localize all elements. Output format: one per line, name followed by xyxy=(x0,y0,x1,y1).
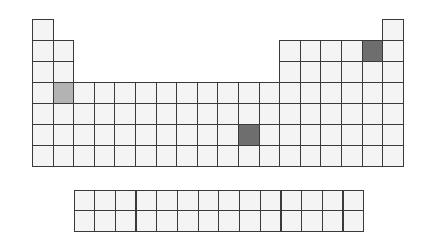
element-cell-p6-g10 xyxy=(217,124,239,146)
element-cell-p7-g12 xyxy=(259,145,281,167)
element-cell-p4-g18 xyxy=(382,82,404,104)
element-cell-p5-g4 xyxy=(94,103,116,125)
actinide-cell-3 xyxy=(115,210,137,232)
element-cell-p5-g3 xyxy=(73,103,95,125)
element-cell-p5-g15 xyxy=(320,103,342,125)
element-cell-p4-g9 xyxy=(197,82,219,104)
element-cell-p1-g18 xyxy=(382,19,404,41)
element-cell-p6-g16 xyxy=(341,124,363,146)
element-cell-p6-g2 xyxy=(53,124,75,146)
element-cell-p3-g18 xyxy=(382,61,404,83)
element-cell-p2-g13 xyxy=(279,40,301,62)
element-cell-p5-g17 xyxy=(362,103,384,125)
lanthanide-cell-5 xyxy=(156,190,178,212)
lanthanide-cell-12 xyxy=(301,190,323,212)
element-cell-p7-g5 xyxy=(114,145,136,167)
element-cell-p7-g17 xyxy=(362,145,384,167)
periodic-table-diagram xyxy=(0,0,427,239)
element-cell-p7-g16 xyxy=(341,145,363,167)
element-cell-p2-g1 xyxy=(32,40,54,62)
element-cell-p4-g14 xyxy=(300,82,322,104)
element-cell-p7-g18 xyxy=(382,145,404,167)
element-cell-p3-g16 xyxy=(341,61,363,83)
element-cell-p2-g17-highlighted xyxy=(362,40,384,62)
element-cell-p6-g6 xyxy=(135,124,157,146)
element-cell-p4-g5 xyxy=(114,82,136,104)
actinide-cell-13 xyxy=(322,210,344,232)
element-cell-p4-g8 xyxy=(176,82,198,104)
element-cell-p6-g7 xyxy=(156,124,178,146)
element-cell-p6-g12 xyxy=(259,124,281,146)
element-cell-p4-g1 xyxy=(32,82,54,104)
element-cell-p6-g15 xyxy=(320,124,342,146)
element-cell-p4-g11 xyxy=(238,82,260,104)
lanthanide-cell-2 xyxy=(94,190,116,212)
element-cell-p6-g17 xyxy=(362,124,384,146)
actinide-cell-5 xyxy=(156,210,178,232)
lanthanide-cell-9 xyxy=(239,190,261,212)
element-cell-p6-g3 xyxy=(73,124,95,146)
element-cell-p6-g4 xyxy=(94,124,116,146)
element-cell-p6-g5 xyxy=(114,124,136,146)
element-cell-p2-g16 xyxy=(341,40,363,62)
element-cell-p6-g18 xyxy=(382,124,404,146)
lanthanide-cell-11 xyxy=(281,190,303,212)
element-cell-p7-g11 xyxy=(238,145,260,167)
lanthanide-cell-3 xyxy=(115,190,137,212)
element-cell-p4-g13 xyxy=(279,82,301,104)
actinide-cell-7 xyxy=(198,210,220,232)
element-cell-p5-g12 xyxy=(259,103,281,125)
element-cell-p1-g1 xyxy=(32,19,54,41)
element-cell-p3-g17 xyxy=(362,61,384,83)
actinide-cell-8 xyxy=(218,210,240,232)
element-cell-p4-g17 xyxy=(362,82,384,104)
element-cell-p3-g14 xyxy=(300,61,322,83)
actinide-cell-1 xyxy=(74,210,96,232)
lanthanide-cell-8 xyxy=(218,190,240,212)
element-cell-p5-g2 xyxy=(53,103,75,125)
element-cell-p5-g13 xyxy=(279,103,301,125)
actinide-cell-6 xyxy=(177,210,199,232)
lanthanide-cell-6 xyxy=(177,190,199,212)
element-cell-p7-g7 xyxy=(156,145,178,167)
element-cell-p5-g14 xyxy=(300,103,322,125)
actinide-cell-12 xyxy=(301,210,323,232)
element-cell-p7-g15 xyxy=(320,145,342,167)
element-cell-p3-g15 xyxy=(320,61,342,83)
actinide-cell-2 xyxy=(94,210,116,232)
element-cell-p7-g3 xyxy=(73,145,95,167)
lanthanide-cell-1 xyxy=(74,190,96,212)
actinide-cell-10 xyxy=(260,210,282,232)
element-cell-p5-g8 xyxy=(176,103,198,125)
lanthanide-cell-10 xyxy=(260,190,282,212)
element-cell-p4-g7 xyxy=(156,82,178,104)
element-cell-p6-g9 xyxy=(197,124,219,146)
lanthanide-cell-14 xyxy=(343,190,365,212)
element-cell-p3-g1 xyxy=(32,61,54,83)
element-cell-p5-g9 xyxy=(197,103,219,125)
element-cell-p7-g10 xyxy=(217,145,239,167)
element-cell-p4-g15 xyxy=(320,82,342,104)
element-cell-p2-g15 xyxy=(320,40,342,62)
element-cell-p5-g1 xyxy=(32,103,54,125)
element-cell-p4-g10 xyxy=(217,82,239,104)
element-cell-p7-g13 xyxy=(279,145,301,167)
element-cell-p7-g9 xyxy=(197,145,219,167)
actinide-cell-14 xyxy=(343,210,365,232)
element-cell-p5-g5 xyxy=(114,103,136,125)
element-cell-p4-g4 xyxy=(94,82,116,104)
element-cell-p5-g7 xyxy=(156,103,178,125)
element-cell-p6-g11-highlighted xyxy=(238,124,260,146)
element-cell-p5-g6 xyxy=(135,103,157,125)
element-cell-p2-g2 xyxy=(53,40,75,62)
element-cell-p5-g11 xyxy=(238,103,260,125)
element-cell-p4-g2-highlighted xyxy=(53,82,75,104)
actinide-cell-4 xyxy=(136,210,158,232)
element-cell-p5-g16 xyxy=(341,103,363,125)
lanthanide-cell-7 xyxy=(198,190,220,212)
element-cell-p3-g13 xyxy=(279,61,301,83)
element-cell-p7-g1 xyxy=(32,145,54,167)
element-cell-p4-g3 xyxy=(73,82,95,104)
element-cell-p7-g2 xyxy=(53,145,75,167)
actinide-cell-9 xyxy=(239,210,261,232)
